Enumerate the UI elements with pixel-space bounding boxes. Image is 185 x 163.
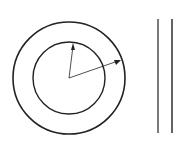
diagram-svg bbox=[0, 0, 185, 163]
figure bbox=[0, 0, 185, 163]
arrowhead-r2 bbox=[114, 60, 121, 65]
